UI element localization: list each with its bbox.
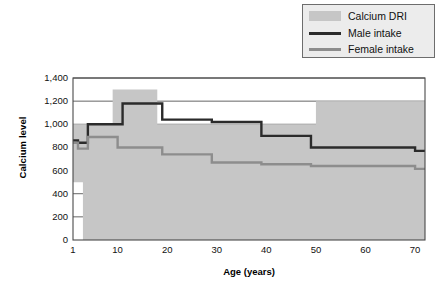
x-axis-tick-label: 40 <box>261 244 272 255</box>
x-axis-tick-label: 10 <box>112 244 123 255</box>
y-axis-tick-label: 1,000 <box>30 119 68 128</box>
y-axis-tick-label: 800 <box>30 142 68 151</box>
y-axis-tick-label: 600 <box>30 166 68 175</box>
legend-item-calcium-dri: Calcium DRI <box>309 8 432 24</box>
calcium-intake-chart: Calcium DRI Male intake Female intake Ca… <box>0 0 443 292</box>
y-axis-tick-label: 200 <box>30 212 68 221</box>
y-axis-tick-label: 400 <box>30 189 68 198</box>
y-axis-ticks: 02004006008001,0001,2001,400 <box>26 0 68 292</box>
legend-item-female-intake: Female intake <box>309 41 432 57</box>
y-axis-tick-label: 1,200 <box>30 96 68 105</box>
legend-swatch-line-icon <box>309 32 341 35</box>
x-axis-title: Age (years) <box>73 266 425 277</box>
y-axis-tick-label: 1,400 <box>30 73 68 82</box>
x-axis-tick-label: 20 <box>162 244 173 255</box>
legend-label-calcium-dri: Calcium DRI <box>348 10 407 22</box>
chart-legend: Calcium DRI Male intake Female intake <box>302 4 435 58</box>
x-axis-tick-label: 30 <box>211 244 222 255</box>
legend-label-female-intake: Female intake <box>348 43 414 55</box>
legend-item-male-intake: Male intake <box>309 25 432 41</box>
legend-swatch-area-icon <box>309 11 341 21</box>
x-axis-tick-label: 50 <box>311 244 322 255</box>
legend-label-male-intake: Male intake <box>348 27 402 39</box>
x-axis-tick-label: 70 <box>410 244 421 255</box>
x-axis-tick-label: 60 <box>360 244 371 255</box>
legend-swatch-line-icon <box>309 48 341 51</box>
x-axis-tick-label: 1 <box>70 244 75 255</box>
y-axis-tick-label: 0 <box>30 235 68 244</box>
